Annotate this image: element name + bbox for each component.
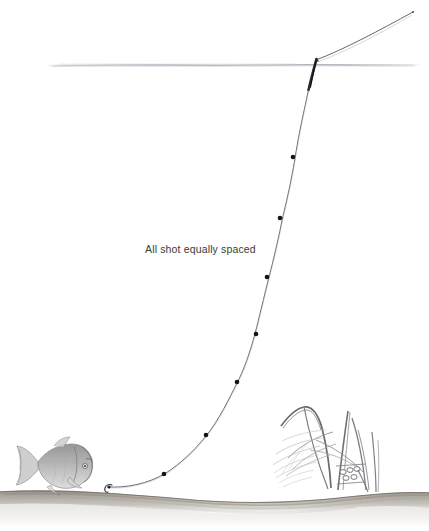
split-shot — [162, 472, 167, 477]
shot-spacing-annotation: All shot equally spaced — [145, 243, 256, 255]
split-shot — [254, 332, 259, 337]
main-line — [108, 90, 309, 488]
rig-layer — [0, 0, 429, 531]
split-shot — [235, 380, 240, 385]
split-shot — [204, 433, 209, 438]
fishing-rig-illustration: All shot equally spaced — [0, 0, 429, 531]
float — [309, 59, 319, 90]
split-shot — [291, 155, 296, 160]
split-shot-group — [162, 155, 296, 477]
split-shot — [278, 216, 283, 221]
rod-line — [316, 11, 414, 62]
split-shot — [265, 275, 270, 280]
hook — [105, 485, 112, 493]
